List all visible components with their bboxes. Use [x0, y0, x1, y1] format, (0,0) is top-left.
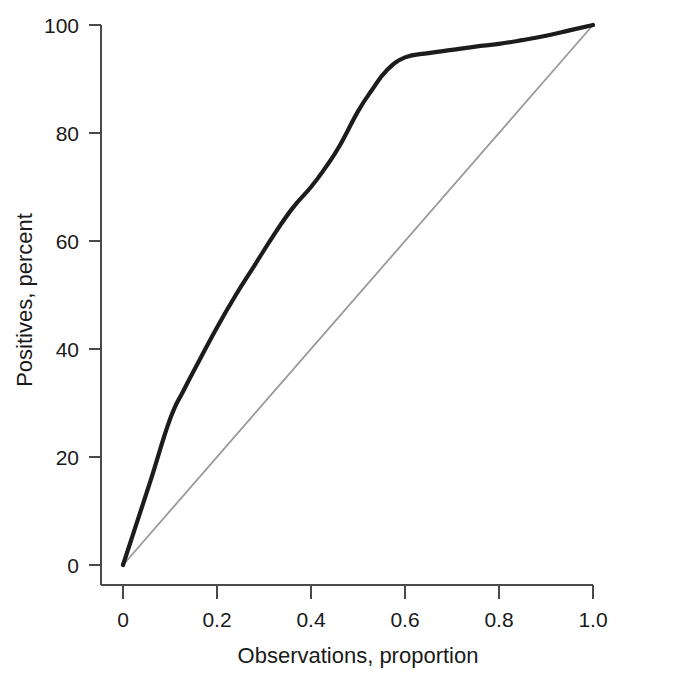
y-axis-title: Positives, percent	[12, 213, 37, 387]
x-tick-label-0: 0	[117, 608, 129, 631]
y-tick-label-40: 40	[56, 338, 79, 361]
x-tick-label-0.6: 0.6	[390, 608, 419, 631]
y-tick-label-0: 0	[67, 554, 79, 577]
y-axis-ticks: 0 20 40 60 80 100	[44, 14, 101, 577]
gain-chart-figure: 0 20 40 60 80 100 0 0.2 0.4 0.6 0.8 1.0 …	[0, 0, 686, 683]
x-tick-label-0.4: 0.4	[296, 608, 326, 631]
x-axis-title: Observations, proportion	[238, 643, 479, 668]
y-tick-label-80: 80	[56, 122, 79, 145]
x-tick-label-0.8: 0.8	[484, 608, 513, 631]
chart-canvas: 0 20 40 60 80 100 0 0.2 0.4 0.6 0.8 1.0 …	[0, 0, 686, 683]
y-tick-label-100: 100	[44, 14, 79, 37]
series-group	[123, 25, 593, 565]
series-baseline-reference-line	[123, 25, 593, 565]
x-tick-label-1.0: 1.0	[578, 608, 607, 631]
x-axis-ticks: 0 0.2 0.4 0.6 0.8 1.0	[117, 585, 607, 631]
y-tick-label-60: 60	[56, 230, 79, 253]
x-tick-label-0.2: 0.2	[202, 608, 231, 631]
y-tick-label-20: 20	[56, 446, 79, 469]
